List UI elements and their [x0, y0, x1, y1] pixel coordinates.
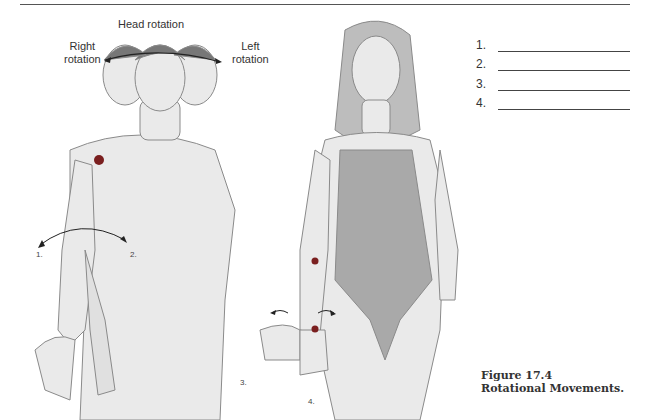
shoulder-marker-dot [94, 155, 104, 165]
answer-field-4[interactable] [498, 97, 630, 110]
figure-title: Rotational Movements. [481, 382, 624, 395]
marker-3: 3. [240, 378, 247, 387]
answer-blanks: 1. 2. 3. 4. [476, 32, 630, 110]
answer-field-2[interactable] [498, 58, 630, 71]
head-rotation-label: Head rotation [118, 18, 184, 31]
figure-number: Figure 17.4 [481, 369, 624, 382]
female-figure [260, 21, 458, 420]
blank-row-4: 4. [476, 91, 630, 111]
forearm-marker-dot-lower [312, 326, 319, 333]
marker-4: 4. [308, 397, 315, 406]
marker-2: 2. [130, 250, 137, 259]
answer-field-3[interactable] [498, 78, 630, 91]
blank-row-2: 2. [476, 52, 630, 72]
figure-caption: Figure 17.4 Rotational Movements. [481, 369, 624, 395]
arrow-left-tip [215, 58, 222, 64]
left-rotation-label: Left rotation [232, 40, 269, 65]
answer-field-1[interactable] [498, 39, 630, 52]
blank-row-1: 1. [476, 32, 630, 52]
right-rotation-label: Right rotation [64, 40, 101, 65]
forearm-marker-dot-upper [312, 258, 319, 265]
male-figure [35, 45, 235, 420]
marker-1: 1. [36, 250, 43, 259]
blank-row-3: 3. [476, 71, 630, 91]
